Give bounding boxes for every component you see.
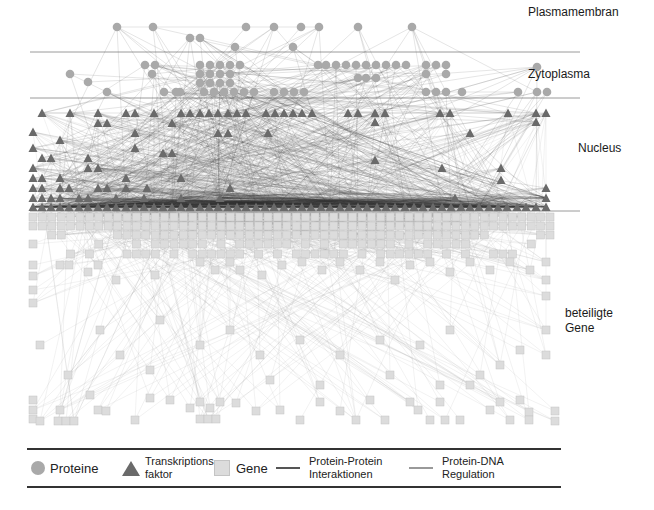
gene-node (64, 371, 72, 379)
gene-node (161, 222, 169, 230)
protein-node (533, 88, 542, 97)
gene-node (146, 366, 154, 374)
gene-node (336, 258, 344, 266)
protein-node (196, 34, 205, 43)
gene-node (542, 326, 550, 334)
gene-node (96, 326, 104, 334)
gene-node (29, 261, 37, 269)
protein-node (220, 88, 229, 97)
gene-node (405, 250, 413, 258)
legend-tf-line2: faktor (145, 468, 217, 481)
gene-node (132, 250, 140, 258)
layer-label-line1: beteiligte (565, 306, 613, 321)
gene-node (198, 240, 206, 248)
gene-node (273, 213, 281, 221)
gene-node (189, 231, 197, 239)
gene-node (339, 222, 347, 230)
gene-node (95, 222, 103, 230)
gene-node (424, 250, 432, 258)
gene-node (349, 213, 357, 221)
gene-node (36, 341, 44, 349)
gene-node (366, 396, 374, 404)
gene-node (499, 213, 507, 221)
gene-node (131, 416, 139, 424)
gene-node (424, 222, 432, 230)
protein-node (270, 88, 279, 97)
gene-node (452, 231, 460, 239)
protein-node (216, 61, 225, 70)
protein-node (432, 61, 441, 70)
gene-node (85, 250, 93, 258)
protein-node (422, 61, 431, 70)
gene-node (198, 250, 206, 258)
gene-node (320, 222, 328, 230)
gene-node (273, 240, 281, 248)
gene-node (283, 240, 291, 248)
gene-node (499, 250, 507, 258)
protein-node (226, 70, 235, 79)
gene-node (56, 261, 64, 269)
protein-node (514, 88, 523, 97)
gene-node (480, 222, 488, 230)
gene-node (349, 222, 357, 230)
gene-node (283, 213, 291, 221)
gene-node (67, 250, 75, 258)
protein-node (103, 88, 112, 97)
gene-node (320, 250, 328, 258)
legend-ppi: Protein-Protein Interaktionen (276, 450, 382, 486)
gene-node (54, 417, 62, 425)
gene-node (264, 240, 272, 248)
gene-node (264, 231, 272, 239)
line-icon (409, 467, 433, 469)
gene-node (446, 326, 454, 334)
gene-node (525, 408, 533, 416)
gene-node (245, 240, 253, 248)
gene-node (377, 231, 385, 239)
gene-node (358, 213, 366, 221)
gene-node (198, 222, 206, 230)
gene-node (330, 231, 338, 239)
protein-node (442, 61, 451, 70)
gene-node (320, 231, 328, 239)
gene-node (132, 231, 140, 239)
gene-node (161, 213, 169, 221)
gene-node (377, 222, 385, 230)
gene-node (29, 240, 37, 248)
gene-node (283, 222, 291, 230)
gene-node (311, 213, 319, 221)
legend-pdna-label: Protein-DNA Regulation (442, 455, 504, 481)
gene-node (358, 250, 366, 258)
gene-node (311, 250, 319, 258)
gene-node (452, 213, 460, 221)
protein-node (160, 88, 169, 97)
gene-node (414, 250, 422, 258)
gene-node (525, 416, 533, 424)
gene-node (196, 415, 204, 423)
gene-node (296, 416, 304, 424)
gene-node (386, 231, 394, 239)
protein-node (113, 23, 122, 32)
gene-node (208, 213, 216, 221)
protein-node (230, 88, 239, 97)
gene-node (123, 222, 131, 230)
legend-pdna-line2: Regulation (442, 468, 504, 481)
gene-node (84, 268, 92, 276)
gene-node (377, 250, 385, 258)
gene-node (76, 213, 84, 221)
gene-node (85, 213, 93, 221)
protein-node (216, 70, 225, 79)
protein-node (342, 61, 351, 70)
gene-node (276, 406, 284, 414)
gene-node (132, 213, 140, 221)
gene-node (486, 266, 494, 274)
protein-node (372, 74, 381, 83)
protein-node (242, 23, 251, 32)
gene-node (112, 276, 120, 284)
gene-node (236, 266, 244, 274)
protein-node (422, 70, 431, 79)
legend-pdna-line1: Protein-DNA (442, 455, 504, 468)
gene-node (405, 240, 413, 248)
gene-node (57, 213, 65, 221)
gene-node (170, 240, 178, 248)
line-icon (276, 467, 300, 469)
